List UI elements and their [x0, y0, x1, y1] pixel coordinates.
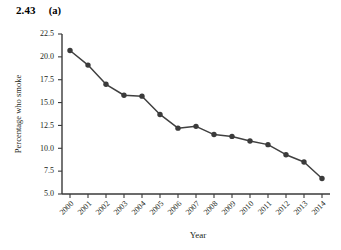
line-chart: 5.07.510.012.515.017.520.022.5 Percentag… — [0, 22, 341, 250]
figure-root: 2.43 (a) 5.07.510.012.515.017.520.022.5 … — [0, 0, 341, 250]
y-tick-label: 7.5 — [44, 166, 54, 175]
y-tick-label: 10.0 — [40, 144, 54, 153]
data-point — [139, 93, 144, 98]
x-tick-label: 2012 — [274, 199, 292, 217]
chart-container: 5.07.510.012.515.017.520.022.5 Percentag… — [0, 22, 341, 250]
data-point — [121, 93, 126, 98]
x-tick-label: 2014 — [310, 199, 328, 217]
x-tick-label: 2008 — [202, 199, 220, 217]
x-tick-label: 2007 — [184, 199, 202, 217]
x-axis-title: Year — [190, 230, 207, 240]
series-group — [67, 48, 324, 181]
x-tick-label: 2006 — [166, 199, 184, 217]
y-tick-label: 15.0 — [40, 98, 54, 107]
x-axis: 2000200120022003200420052006200720082009… — [58, 194, 330, 240]
y-axis: 5.07.510.012.515.017.520.022.5 Percentag… — [13, 29, 62, 198]
data-point — [193, 124, 198, 129]
data-point — [301, 159, 306, 164]
x-tick-label: 2009 — [220, 199, 238, 217]
y-tick-label: 20.0 — [40, 52, 54, 61]
data-point — [157, 112, 162, 117]
x-tick-label: 2002 — [94, 199, 112, 217]
y-tick-label: 22.5 — [40, 29, 54, 38]
series-line-percentage-who-smoke — [70, 50, 322, 178]
data-point — [283, 152, 288, 157]
x-tick-label: 2001 — [76, 199, 94, 217]
data-point — [85, 62, 90, 67]
data-point — [67, 48, 72, 53]
data-point — [319, 176, 324, 181]
data-point — [103, 82, 108, 87]
data-point — [229, 134, 234, 139]
data-point — [265, 142, 270, 147]
data-point — [247, 138, 252, 143]
x-tick-label: 2000 — [58, 199, 76, 217]
y-axis-title: Percentage who smoke — [13, 75, 23, 154]
x-tick-label: 2010 — [238, 199, 256, 217]
y-tick-group: 5.07.510.012.515.017.520.022.5 — [40, 29, 62, 198]
x-tick-label: 2003 — [112, 199, 130, 217]
y-tick-label: 5.0 — [44, 189, 54, 198]
data-point — [175, 125, 180, 130]
figure-header: 2.43 (a) — [16, 4, 61, 16]
x-tick-label: 2013 — [292, 199, 310, 217]
y-tick-label: 12.5 — [40, 121, 54, 130]
x-tick-group: 2000200120022003200420052006200720082009… — [58, 194, 328, 217]
x-tick-label: 2005 — [148, 199, 166, 217]
x-tick-label: 2011 — [256, 199, 273, 216]
figure-number: 2.43 — [16, 4, 36, 16]
series-point-group — [67, 48, 324, 181]
y-tick-label: 17.5 — [40, 75, 54, 84]
figure-part-label: (a) — [49, 5, 61, 16]
x-tick-label: 2004 — [130, 199, 148, 217]
data-point — [211, 132, 216, 137]
